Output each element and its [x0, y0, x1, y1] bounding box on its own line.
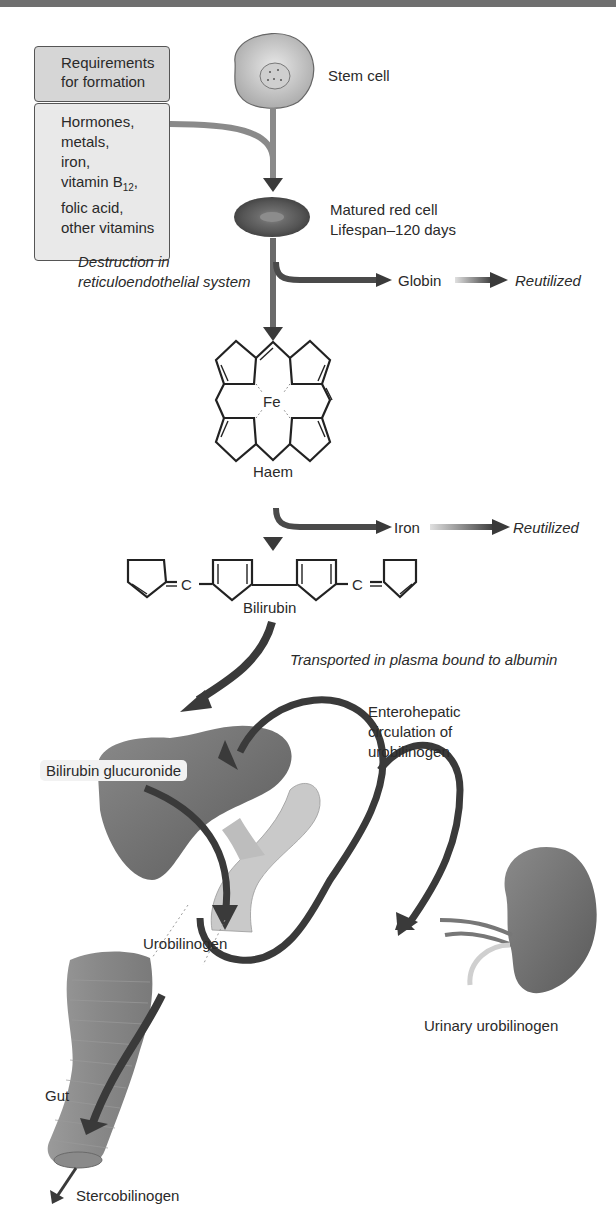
urinary-urobilinogen-label: Urinary urobilinogen	[424, 1016, 558, 1035]
kidney-icon	[505, 847, 597, 993]
requirements-arrow	[170, 124, 273, 160]
bilirubin-structure-icon	[128, 560, 416, 600]
haem-label: Haem	[253, 462, 293, 481]
iron-label: Iron	[394, 518, 420, 537]
bilirubin-glucuronide-label: Bilirubin glucuronide	[40, 760, 187, 781]
destruction-label-2: reticuloendothelial system	[78, 272, 251, 291]
globin-label: Globin	[398, 271, 441, 290]
exit-arrow-icon	[50, 1190, 64, 1204]
arrow-right-icon	[376, 273, 392, 287]
enterohepatic-label-2: circulation of	[368, 722, 452, 741]
enterohepatic-label-1: Enterohepatic	[368, 702, 461, 721]
arrow-down-icon	[263, 178, 283, 192]
globin-reutilized-label: Reutilized	[515, 271, 581, 290]
lifespan-label: Lifespan–120 days	[330, 220, 456, 239]
fe-label: Fe	[263, 392, 281, 411]
stem-cell-label: Stem cell	[328, 66, 390, 85]
gut-label: Gut	[45, 1086, 69, 1105]
bilirubin-c-right: C	[352, 575, 363, 594]
bilirubin-c-left: C	[181, 575, 192, 594]
stem-cell-icon	[235, 34, 314, 109]
transport-label: Transported in plasma bound to albumin	[290, 650, 557, 669]
gut-icon	[48, 951, 153, 1166]
destruction-label-1: Destruction in	[78, 252, 170, 271]
red-cell-label: Matured red cell	[330, 200, 438, 219]
bilirubin-label: Bilirubin	[243, 598, 296, 617]
urobilinogen-label: Urobilinogen	[143, 934, 227, 953]
enterohepatic-label-3: urobilinogen	[368, 742, 450, 761]
iron-reutilized-label: Reutilized	[513, 518, 579, 537]
renal-vessels-icon	[440, 920, 512, 945]
stercobilinogen-label: Stercobilinogen	[76, 1186, 179, 1205]
